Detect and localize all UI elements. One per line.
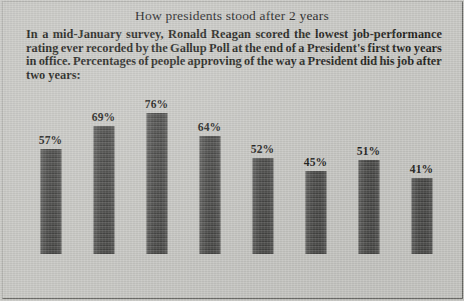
presidents-approval-chart-figure: How presidents stood after 2 years Inami…: [0, 0, 464, 301]
bar-reagan: [411, 178, 432, 254]
bar-value-label: 41%: [410, 163, 434, 176]
bar-ford: [305, 171, 326, 254]
bar-value-label: 57%: [39, 134, 63, 147]
bar-carter: [358, 160, 379, 254]
bar-value-label: 76%: [145, 98, 169, 111]
bar-slot: 57%: [24, 92, 77, 254]
bar-kennedy: [146, 113, 167, 254]
bar-chart-plot-area: 57%69%76%64%52%45%51%41%: [24, 92, 448, 254]
bar-value-label: 69%: [92, 111, 116, 124]
deck-line-3: inoffice.Percentagesofpeopleapprovingoft…: [26, 55, 442, 69]
figure-content: How presidents stood after 2 years Inami…: [0, 0, 464, 301]
figure-deck-text: Inamid-Januarysurvey,RonaldReaganscoredt…: [26, 28, 442, 82]
bar-slot: 76%: [130, 92, 183, 254]
bar-slot: 45%: [289, 92, 342, 254]
bar-value-label: 52%: [251, 143, 275, 156]
bar-eisenhower: [93, 126, 114, 254]
deck-line-2: ratingeverrecordedbytheGallupPollattheen…: [26, 42, 442, 56]
bar-slot: 69%: [77, 92, 130, 254]
deck-line-1: Inamid-Januarysurvey,RonaldReaganscoredt…: [26, 28, 442, 42]
bar-chart: 57%69%76%64%52%45%51%41% TrumanEisenhowe…: [0, 92, 464, 301]
figure-headline: How presidents stood after 2 years: [0, 8, 464, 24]
bar-nixon: [252, 158, 273, 254]
bar-value-label: 64%: [198, 121, 222, 134]
bar-slot: 64%: [183, 92, 236, 254]
bar-value-label: 51%: [357, 145, 381, 158]
bar-slot: 51%: [342, 92, 395, 254]
bar-value-label: 45%: [304, 156, 328, 169]
bar-slot: 52%: [236, 92, 289, 254]
bar-johnson: [199, 136, 220, 254]
bar-slot: 41%: [395, 92, 448, 254]
deck-line-4: two years:: [26, 69, 442, 83]
bar-truman: [40, 149, 61, 254]
